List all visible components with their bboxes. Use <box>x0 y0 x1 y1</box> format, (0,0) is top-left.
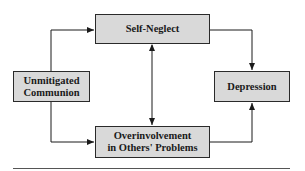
node-label-line: Unmitigated <box>23 75 79 87</box>
bottom-rule <box>13 168 290 169</box>
node-label-line: Communion <box>23 87 79 99</box>
node-label-line: Overinvolvement <box>107 130 197 142</box>
node-unmitigated-communion: Unmitigated Communion <box>13 71 90 102</box>
node-overinvolvement: Overinvolvement in Others' Problems <box>95 126 210 158</box>
node-label-line: Depression <box>227 81 276 93</box>
node-self-neglect: Self-Neglect <box>95 14 210 44</box>
node-depression: Depression <box>214 71 290 102</box>
arrow-uc-to-self-neglect <box>51 30 94 71</box>
arrow-self-neglect-to-depression <box>210 30 252 70</box>
node-label-line: Self-Neglect <box>126 23 180 35</box>
node-label-line: in Others' Problems <box>107 142 197 154</box>
arrow-overinvolvement-to-depression <box>210 103 252 142</box>
arrow-uc-to-overinvolvement <box>51 102 94 142</box>
